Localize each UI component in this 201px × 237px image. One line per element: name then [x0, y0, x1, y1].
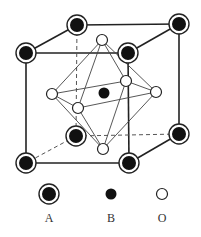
legend-o-icon — [157, 189, 168, 200]
legend: A B O — [39, 184, 168, 225]
perovskite-diagram: A B O — [0, 0, 201, 237]
legend-b-label: B — [107, 211, 115, 225]
legend-b-icon — [106, 189, 117, 200]
legend-a-icon — [39, 184, 59, 204]
legend-a-label: A — [45, 211, 54, 225]
legend-o-label: O — [158, 211, 167, 225]
b-atom — [99, 88, 110, 99]
